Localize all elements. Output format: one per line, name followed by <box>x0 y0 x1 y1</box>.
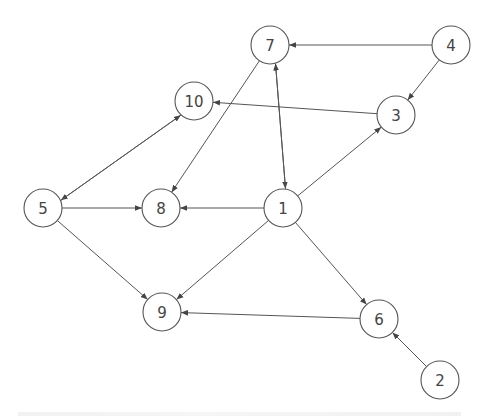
edge-5-to-10 <box>61 115 181 200</box>
node-label: 7 <box>265 37 275 55</box>
node-3: 3 <box>377 96 415 134</box>
edge-5-to-9 <box>57 221 147 300</box>
node-label: 10 <box>184 93 203 111</box>
node-8: 8 <box>142 189 180 227</box>
edge-6-to-9 <box>181 313 360 319</box>
node-label: 5 <box>38 200 48 218</box>
node-label: 3 <box>391 107 401 125</box>
node-7: 7 <box>251 26 289 64</box>
node-label: 4 <box>446 37 456 55</box>
node-4: 4 <box>432 26 470 64</box>
edge-2-to-6 <box>392 332 426 366</box>
node-label: 6 <box>374 311 384 329</box>
cropped-caption-band <box>18 412 461 416</box>
node-6: 6 <box>360 300 398 338</box>
node-label: 8 <box>156 200 166 218</box>
edge-1-to-7 <box>276 64 286 189</box>
edge-1-to-9 <box>176 220 268 299</box>
edge-4-to-3 <box>408 60 440 100</box>
edge-1-to-3 <box>298 127 382 196</box>
node-label: 2 <box>435 372 445 390</box>
node-5: 5 <box>24 189 62 227</box>
edge-3-to-10 <box>213 102 377 113</box>
node-label: 1 <box>278 200 288 218</box>
node-10: 10 <box>175 82 213 120</box>
edge-1-to-6 <box>295 222 366 304</box>
edge-7-to-8 <box>172 61 260 192</box>
node-label: 9 <box>157 304 167 322</box>
node-1: 1 <box>264 189 302 227</box>
graph-diagram: 12345678910 <box>0 0 491 419</box>
node-2: 2 <box>421 361 459 399</box>
node-9: 9 <box>143 293 181 331</box>
